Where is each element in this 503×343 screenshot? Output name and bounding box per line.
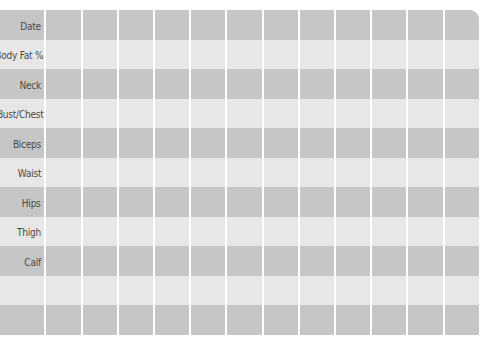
measurement-cell[interactable] (372, 305, 408, 335)
measurement-cell[interactable] (46, 40, 82, 70)
row-label[interactable] (0, 305, 46, 335)
measurement-cell[interactable] (83, 217, 119, 247)
measurement-cell[interactable] (264, 276, 300, 306)
measurement-cell[interactable] (372, 99, 408, 129)
measurement-cell[interactable] (46, 187, 82, 217)
date-cell[interactable] (300, 10, 336, 40)
measurement-cell[interactable] (300, 217, 336, 247)
measurement-cell[interactable] (155, 217, 191, 247)
measurement-cell[interactable] (336, 158, 372, 188)
measurement-cell[interactable] (46, 128, 82, 158)
measurement-cell[interactable] (155, 158, 191, 188)
measurement-cell[interactable] (336, 187, 372, 217)
measurement-cell[interactable] (227, 276, 263, 306)
date-cell[interactable] (155, 10, 191, 40)
measurement-cell[interactable] (155, 246, 191, 276)
date-cell[interactable] (445, 10, 479, 40)
measurement-cell[interactable] (372, 40, 408, 70)
measurement-cell[interactable] (119, 276, 155, 306)
measurement-cell[interactable] (191, 69, 227, 99)
measurement-cell[interactable] (445, 187, 479, 217)
measurement-cell[interactable] (227, 187, 263, 217)
measurement-cell[interactable] (445, 99, 479, 129)
date-cell[interactable] (408, 10, 444, 40)
measurement-cell[interactable] (191, 187, 227, 217)
measurement-cell[interactable] (119, 128, 155, 158)
measurement-cell[interactable] (191, 99, 227, 129)
measurement-cell[interactable] (119, 217, 155, 247)
measurement-cell[interactable] (119, 99, 155, 129)
measurement-cell[interactable] (264, 128, 300, 158)
measurement-cell[interactable] (191, 305, 227, 335)
measurement-cell[interactable] (408, 246, 444, 276)
measurement-cell[interactable] (445, 217, 479, 247)
measurement-cell[interactable] (46, 305, 82, 335)
measurement-cell[interactable] (408, 128, 444, 158)
measurement-cell[interactable] (336, 128, 372, 158)
measurement-cell[interactable] (264, 246, 300, 276)
date-cell[interactable] (227, 10, 263, 40)
measurement-cell[interactable] (408, 187, 444, 217)
measurement-cell[interactable] (155, 69, 191, 99)
measurement-cell[interactable] (336, 40, 372, 70)
measurement-cell[interactable] (408, 69, 444, 99)
measurement-cell[interactable] (46, 276, 82, 306)
measurement-cell[interactable] (227, 69, 263, 99)
measurement-cell[interactable] (155, 187, 191, 217)
measurement-cell[interactable] (300, 246, 336, 276)
measurement-cell[interactable] (46, 99, 82, 129)
measurement-cell[interactable] (83, 158, 119, 188)
measurement-cell[interactable] (336, 217, 372, 247)
measurement-cell[interactable] (191, 217, 227, 247)
measurement-cell[interactable] (264, 99, 300, 129)
measurement-cell[interactable] (46, 69, 82, 99)
measurement-cell[interactable] (408, 40, 444, 70)
measurement-cell[interactable] (300, 276, 336, 306)
measurement-cell[interactable] (227, 305, 263, 335)
measurement-cell[interactable] (119, 40, 155, 70)
date-cell[interactable] (46, 10, 82, 40)
measurement-cell[interactable] (264, 217, 300, 247)
measurement-cell[interactable] (445, 40, 479, 70)
measurement-cell[interactable] (445, 69, 479, 99)
measurement-cell[interactable] (227, 158, 263, 188)
measurement-cell[interactable] (336, 69, 372, 99)
measurement-cell[interactable] (372, 69, 408, 99)
date-cell[interactable] (83, 10, 119, 40)
measurement-cell[interactable] (119, 305, 155, 335)
measurement-cell[interactable] (372, 276, 408, 306)
measurement-cell[interactable] (155, 128, 191, 158)
measurement-cell[interactable] (83, 276, 119, 306)
measurement-cell[interactable] (119, 246, 155, 276)
measurement-cell[interactable] (336, 246, 372, 276)
measurement-cell[interactable] (264, 69, 300, 99)
measurement-cell[interactable] (445, 128, 479, 158)
measurement-cell[interactable] (445, 305, 479, 335)
measurement-cell[interactable] (119, 158, 155, 188)
measurement-cell[interactable] (83, 128, 119, 158)
date-cell[interactable] (336, 10, 372, 40)
measurement-cell[interactable] (264, 40, 300, 70)
measurement-cell[interactable] (408, 276, 444, 306)
measurement-cell[interactable] (83, 246, 119, 276)
measurement-cell[interactable] (336, 276, 372, 306)
measurement-cell[interactable] (83, 40, 119, 70)
measurement-cell[interactable] (119, 187, 155, 217)
measurement-cell[interactable] (191, 128, 227, 158)
measurement-cell[interactable] (372, 158, 408, 188)
measurement-cell[interactable] (83, 305, 119, 335)
measurement-cell[interactable] (227, 40, 263, 70)
measurement-cell[interactable] (83, 99, 119, 129)
date-cell[interactable] (191, 10, 227, 40)
measurement-cell[interactable] (191, 40, 227, 70)
measurement-cell[interactable] (155, 305, 191, 335)
measurement-cell[interactable] (336, 99, 372, 129)
measurement-cell[interactable] (227, 128, 263, 158)
measurement-cell[interactable] (372, 187, 408, 217)
measurement-cell[interactable] (46, 246, 82, 276)
measurement-cell[interactable] (372, 246, 408, 276)
measurement-cell[interactable] (264, 158, 300, 188)
measurement-cell[interactable] (83, 69, 119, 99)
row-label[interactable] (0, 276, 46, 306)
measurement-cell[interactable] (83, 187, 119, 217)
